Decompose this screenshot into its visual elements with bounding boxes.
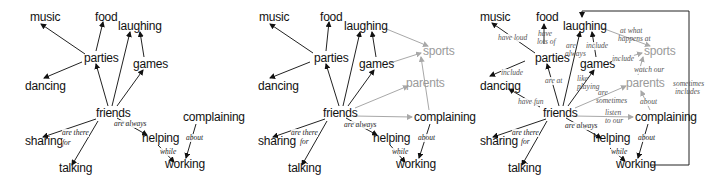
edge-label-while: while bbox=[611, 148, 627, 156]
edge-label-always: always bbox=[565, 50, 586, 58]
node-games: games bbox=[580, 58, 615, 70]
edge-label-lots-of: lots of bbox=[537, 38, 556, 46]
node-sports: sports bbox=[644, 45, 675, 57]
node-music: music bbox=[480, 11, 510, 23]
edge-label-are-always: are always bbox=[565, 122, 597, 130]
edge-label-while: while bbox=[160, 148, 176, 156]
edge-label-for: for bbox=[300, 138, 309, 146]
node-food: food bbox=[95, 11, 118, 23]
node-friends: friends bbox=[323, 107, 358, 119]
node-laughing: laughing bbox=[118, 20, 162, 32]
edge-label-have-loud: have loud bbox=[498, 34, 527, 42]
node-parents: parents bbox=[406, 77, 445, 89]
edge-label-are-at: are at bbox=[545, 77, 562, 85]
node-games: games bbox=[359, 58, 394, 70]
node-complaining: complaining bbox=[635, 111, 697, 123]
edge-label-about: about bbox=[638, 134, 655, 142]
edge-label-include-games: include bbox=[586, 42, 608, 50]
node-food: food bbox=[536, 11, 559, 23]
edge-label-playing: playing bbox=[577, 83, 600, 91]
node-talking: talking bbox=[508, 162, 541, 174]
node-music: music bbox=[259, 11, 289, 23]
edge-label-about-parents: about bbox=[640, 98, 657, 106]
node-working: working bbox=[396, 158, 436, 170]
edge-label-for: for bbox=[62, 139, 71, 147]
node-friends: friends bbox=[96, 107, 131, 119]
node-helping: helping bbox=[373, 132, 410, 144]
edge-label-include-sports: include bbox=[612, 55, 634, 63]
edge-label-sometimes-2: sometimes bbox=[596, 97, 627, 105]
node-friends: friends bbox=[543, 107, 578, 119]
node-parents: parents bbox=[626, 77, 665, 89]
node-working: working bbox=[165, 158, 205, 170]
edge-label-for: for bbox=[521, 138, 530, 146]
node-parties: parties bbox=[84, 52, 119, 64]
node-laughing: laughing bbox=[563, 20, 607, 32]
edge-label-are-there: are there bbox=[291, 129, 318, 137]
edge-label-are-always: are always bbox=[114, 120, 146, 128]
node-talking: talking bbox=[59, 162, 92, 174]
node-dancing: dancing bbox=[480, 80, 521, 92]
edge-label-are-always: are always bbox=[344, 121, 376, 129]
node-food: food bbox=[320, 11, 343, 23]
edge-label-includes: includes bbox=[675, 88, 700, 96]
node-parties: parties bbox=[314, 52, 349, 64]
node-talking: talking bbox=[288, 162, 321, 174]
edge-label-have-fun: have fun bbox=[518, 98, 544, 106]
node-helping: helping bbox=[593, 132, 630, 144]
edge-label-to-our: to our bbox=[605, 117, 623, 125]
node-complaining: complaining bbox=[414, 111, 476, 123]
concept-map-panel-3: music food laughing parties games sports… bbox=[480, 0, 725, 190]
node-laughing: laughing bbox=[344, 20, 388, 32]
node-sports: sports bbox=[423, 45, 454, 57]
node-sharing: sharing bbox=[25, 135, 63, 147]
edge-label-happens-at: happens at bbox=[618, 35, 651, 43]
node-dancing: dancing bbox=[25, 80, 66, 92]
node-games: games bbox=[133, 58, 168, 70]
node-music: music bbox=[30, 11, 60, 23]
edge-label-about: about bbox=[186, 134, 203, 142]
edge-label-about: about bbox=[418, 134, 435, 142]
edge-label-include-dancing: include bbox=[501, 69, 523, 77]
concept-map-panel-2: music food laughing parties games sports… bbox=[240, 0, 482, 190]
node-complaining: complaining bbox=[183, 111, 245, 123]
concept-map-panel-1: music food laughing parties games dancin… bbox=[0, 0, 242, 190]
edge-label-watch-our: watch our bbox=[634, 66, 664, 74]
node-working: working bbox=[616, 158, 656, 170]
edge-label-are-there: are there bbox=[512, 129, 539, 137]
node-dancing: dancing bbox=[258, 80, 299, 92]
edge-label-are-there: are there bbox=[62, 129, 89, 137]
edge-label-while: while bbox=[392, 148, 408, 156]
node-helping: helping bbox=[142, 132, 179, 144]
